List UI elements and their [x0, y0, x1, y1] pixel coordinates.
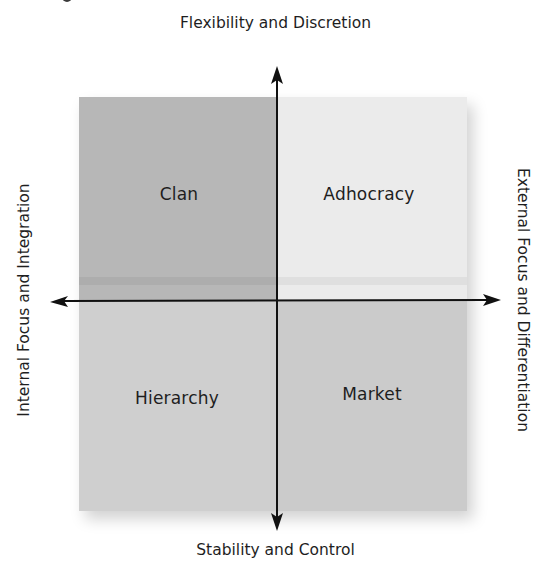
- horizontal-axis-line: [64, 300, 488, 301]
- axis-label-bottom: Stability and Control: [0, 541, 547, 559]
- axis-label-bottom-text: Stability and Control: [196, 541, 354, 559]
- axes-arrows: [0, 0, 547, 580]
- axis-label-right: External Focus and Differentiation: [514, 168, 532, 432]
- axis-label-left: Internal Focus and Integration: [15, 183, 33, 416]
